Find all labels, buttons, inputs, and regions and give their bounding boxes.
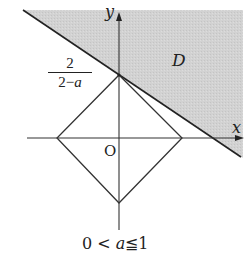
diagram-graphics: [0, 0, 251, 274]
condition-right: ≦1: [125, 234, 148, 253]
denominator-variable: a: [74, 74, 82, 90]
x-axis-label: x: [232, 120, 241, 136]
denominator-prefix: 2−: [58, 74, 74, 90]
origin-label: O: [104, 144, 116, 159]
condition-caption: 0 < a≦1: [82, 236, 149, 252]
y-intercept-fraction: 2 2−a: [48, 56, 92, 90]
intercept-point: [117, 73, 120, 76]
region-label-d: D: [172, 52, 186, 69]
fraction-numerator: 2: [48, 56, 92, 71]
condition-left: 0 <: [82, 234, 111, 253]
condition-variable: a: [116, 234, 126, 253]
fraction-denominator: 2−a: [48, 75, 92, 90]
y-axis-label: y: [105, 4, 114, 20]
fraction-bar: [48, 72, 92, 73]
diagram-canvas: y x D O 2 2−a 0 < a≦1: [0, 0, 251, 274]
